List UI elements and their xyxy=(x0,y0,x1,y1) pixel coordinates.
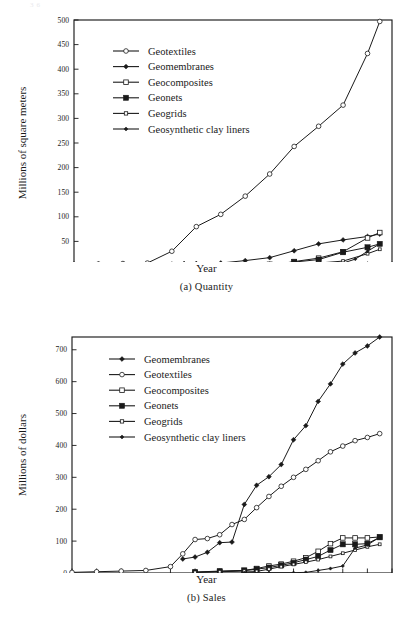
figure-caption-sales: (b) Sales xyxy=(0,592,413,603)
figure-caption-quantity: (a) Quantity xyxy=(0,281,413,292)
legend-label-geogrids: Geogrids xyxy=(144,416,183,427)
data-point-open-square xyxy=(365,236,370,241)
data-point-open-square-small xyxy=(218,570,221,573)
data-point-filled-diamond xyxy=(182,261,187,262)
data-point-filled-square xyxy=(292,259,297,262)
y-tick-label-100: 100 xyxy=(58,212,70,221)
data-point-filled-diamond xyxy=(180,557,185,562)
data-point-filled-diamond xyxy=(230,540,235,545)
data-point-open-square-small xyxy=(194,571,197,573)
data-point-filled-diamond xyxy=(243,258,248,262)
y-axis-title: Millions of dollars xyxy=(16,414,28,496)
data-point-open-circle xyxy=(243,194,248,199)
chart-svg-quantity: 0501001502002503003504004505001970197219… xyxy=(0,0,413,262)
data-point-open-circle xyxy=(267,172,272,177)
data-point-open-square-small xyxy=(280,565,283,568)
data-point-filled-square xyxy=(328,547,333,552)
data-point-filled-square xyxy=(340,542,345,547)
data-point-open-square xyxy=(316,549,321,554)
data-point-open-circle xyxy=(120,372,125,377)
data-point-open-circle xyxy=(365,435,370,440)
data-point-open-circle xyxy=(94,569,99,573)
data-point-open-circle xyxy=(193,537,198,542)
series-line-geotextiles xyxy=(72,434,380,573)
data-point-open-square xyxy=(124,112,127,115)
data-point-open-circle xyxy=(279,484,284,489)
data-point-open-circle xyxy=(377,431,382,436)
y-tick-label-50: 50 xyxy=(61,237,69,246)
data-point-filled-square xyxy=(340,250,345,255)
data-point-open-circle xyxy=(168,564,173,569)
data-point-open-circle xyxy=(145,261,150,262)
data-point-filled-diamond xyxy=(267,255,272,260)
data-point-open-square xyxy=(353,536,358,541)
data-point-open-circle xyxy=(316,458,321,463)
y-tick-label-400: 400 xyxy=(56,441,68,450)
data-point-open-circle xyxy=(291,475,296,480)
legend-label-geonets: Geonets xyxy=(148,92,182,103)
x-axis-title-quantity: Year xyxy=(0,262,413,274)
data-point-open-circle xyxy=(218,212,223,217)
data-point-open-square-small xyxy=(304,561,307,564)
data-point-filled-diamond xyxy=(124,64,129,69)
data-point-open-circle xyxy=(217,532,222,537)
data-point-open-circle xyxy=(377,19,382,24)
data-point-open-circle xyxy=(316,124,321,129)
legend-label-geotextiles: Geotextiles xyxy=(148,46,196,57)
y-tick-label-400: 400 xyxy=(58,65,70,74)
data-point-open-circle xyxy=(121,261,126,262)
data-point-open-square xyxy=(340,536,345,541)
data-point-filled-diamond-small xyxy=(292,571,295,573)
legend-label-geomembranes: Geomembranes xyxy=(148,61,214,72)
data-point-filled-diamond xyxy=(120,357,125,362)
data-point-open-square-small xyxy=(341,552,344,555)
data-point-filled-square xyxy=(365,245,370,250)
data-point-open-circle xyxy=(194,224,199,229)
data-point-open-square-small xyxy=(378,543,381,546)
data-point-filled-square xyxy=(119,403,124,408)
data-point-open-square-small xyxy=(329,555,332,558)
legend-label-geotextiles: Geotextiles xyxy=(144,369,192,380)
data-point-filled-square xyxy=(123,95,128,100)
y-tick-label-200: 200 xyxy=(56,505,68,514)
y-tick-label-350: 350 xyxy=(58,89,70,98)
plot-area-quantity: 0501001502002503003504004505001970197219… xyxy=(0,0,413,262)
data-point-open-circle xyxy=(292,144,297,149)
y-tick-label-100: 100 xyxy=(56,537,68,546)
data-point-open-square xyxy=(365,536,370,541)
data-point-open-square-small xyxy=(268,568,271,571)
data-point-filled-diamond xyxy=(242,502,247,507)
series-line-geogrids xyxy=(195,544,380,572)
data-point-open-circle xyxy=(70,570,75,573)
data-point-open-circle xyxy=(365,51,370,56)
data-point-filled-diamond xyxy=(218,261,223,262)
y-tick-label-0: 0 xyxy=(63,569,67,573)
data-point-filled-diamond xyxy=(124,127,128,131)
y-tick-label-200: 200 xyxy=(58,163,70,172)
legend: GeotextilesGeomembranesGeocompositesGeon… xyxy=(113,46,249,135)
plot-area-sales: 0100200300400500600700197019721974197619… xyxy=(0,311,413,573)
data-point-open-circle xyxy=(304,467,309,472)
data-point-open-square xyxy=(377,230,382,235)
data-point-filled-diamond xyxy=(341,237,346,242)
data-point-filled-diamond-small xyxy=(267,571,270,573)
data-point-open-circle xyxy=(242,517,247,522)
y-tick-label-300: 300 xyxy=(56,473,68,482)
data-point-open-circle xyxy=(124,49,129,54)
plot-frame xyxy=(74,20,392,262)
y-tick-label-250: 250 xyxy=(58,139,70,148)
legend: GeomembranesGeotextilesGeocompositesGeon… xyxy=(109,354,245,443)
data-point-open-square-small xyxy=(292,563,295,566)
data-point-open-circle xyxy=(170,249,175,254)
data-point-open-circle xyxy=(119,569,124,573)
legend-label-geocomposites: Geocomposites xyxy=(148,77,213,88)
data-point-open-circle xyxy=(340,444,345,449)
y-tick-label-450: 450 xyxy=(58,40,70,49)
y-tick-label-500: 500 xyxy=(58,16,70,25)
data-point-open-square-small xyxy=(317,558,320,561)
legend-label-geogrids: Geogrids xyxy=(148,108,187,119)
data-point-open-circle xyxy=(230,522,235,527)
data-point-open-circle xyxy=(254,505,259,510)
data-point-open-square xyxy=(328,541,333,546)
legend-label-geosynthetic-clay-liners: Geosynthetic clay liners xyxy=(144,432,245,443)
